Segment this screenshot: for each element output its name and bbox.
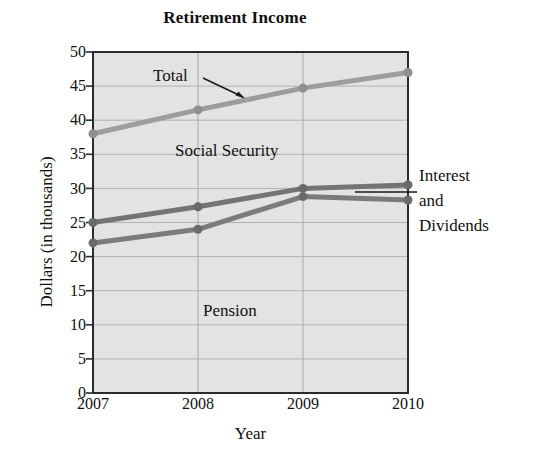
annotation-interest-line-2: and [419,188,534,213]
chart-figure: Retirement Income Dollars (in thousands)… [0,0,537,466]
annotation-social-security: Social Security [175,141,278,161]
annotation-interest-line-3: Dividends [419,213,534,238]
annotation-interest-and-dividends: Interest and Dividends [419,163,534,238]
annotation-total: Total [153,66,188,86]
annotation-pension: Pension [203,301,257,321]
annotation-interest-line-1: Interest [419,163,534,188]
